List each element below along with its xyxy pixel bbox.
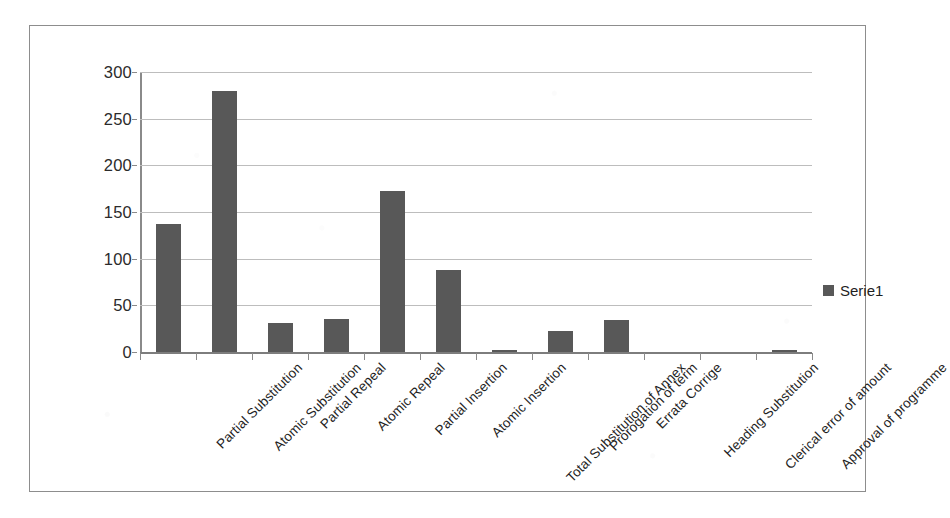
y-tick-mark-50 [132,305,137,306]
gridline-100 [140,259,812,260]
bar [772,350,797,352]
x-tick [476,353,477,360]
legend-label-serie1: Serie1 [840,282,883,299]
x-tick [812,353,813,360]
x-tick [252,353,253,360]
y-tick-mark-100 [132,259,137,260]
bar [380,191,405,352]
y-tick-mark-0 [132,352,137,353]
x-tick [196,353,197,360]
y-tick-mark-300 [132,72,137,73]
y-tick-label-100: 100 [104,249,132,268]
y-tick-mark-200 [132,165,137,166]
gridline-150 [140,212,812,213]
bar [324,319,349,352]
x-tick [308,353,309,360]
bar [604,320,629,352]
x-tick [700,353,701,360]
y-tick-label-150: 150 [104,203,132,222]
gridline-50 [140,305,812,306]
bar [212,91,237,352]
bar [268,323,293,352]
gridline-250 [140,119,812,120]
x-tick [756,353,757,360]
y-tick-label-300: 300 [104,63,132,82]
bar [548,331,573,352]
gridline-200 [140,165,812,166]
bar [156,224,181,352]
legend-swatch-serie1 [823,285,834,296]
x-axis-label: Approval of programme [838,360,950,472]
x-tick [420,353,421,360]
chart-frame: 050100150200250300 Partial SubstitutionA… [29,25,866,492]
plot-area [140,72,812,352]
x-axis-category-labels: Partial SubstitutionAtomic SubstitutionP… [140,360,840,510]
x-tick [532,353,533,360]
x-tick [140,353,141,360]
x-tick [588,353,589,360]
y-tick-mark-250 [132,119,137,120]
gridline-300 [140,72,812,73]
y-tick-label-200: 200 [104,156,132,175]
y-tick-label-250: 250 [104,109,132,128]
y-tick-label-0: 0 [123,343,132,362]
x-tick [644,353,645,360]
bar [436,270,461,352]
bar [492,350,517,352]
y-tick-mark-150 [132,212,137,213]
x-tick [364,353,365,360]
chart-legend: Serie1 [823,282,883,299]
y-axis-labels: 050100150200250300 [78,72,132,352]
y-tick-label-50: 50 [113,296,132,315]
